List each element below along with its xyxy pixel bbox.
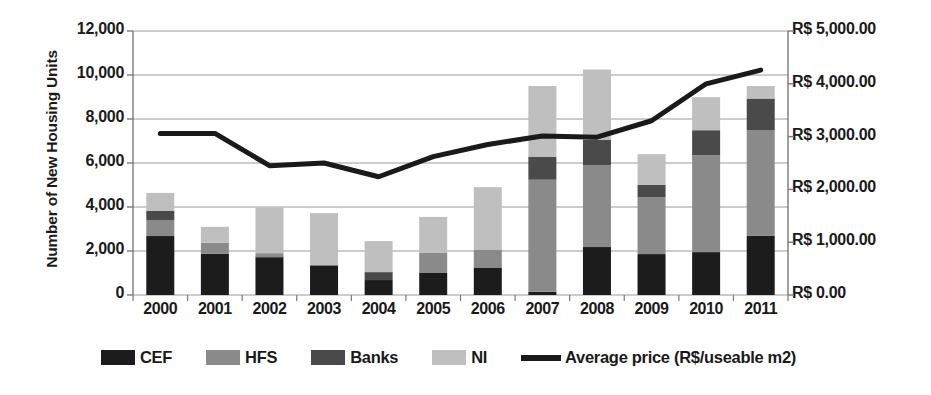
bar-segment-ni-2009 — [638, 154, 666, 185]
bar-segment-cef-2007 — [528, 292, 556, 295]
bar-group-2001 — [201, 227, 229, 295]
bar-segment-ni-2002 — [255, 207, 283, 253]
bar-segment-ni-2006 — [474, 187, 502, 249]
legend-label: Average price (R$/useable m2) — [565, 348, 796, 367]
legend-swatch-icon — [101, 350, 135, 365]
legend-line-marker — [521, 355, 561, 361]
bar-segment-ni-2010 — [692, 97, 720, 130]
bar-segment-hfs-2005 — [419, 253, 447, 273]
legend-item-cef[interactable]: CEF — [101, 348, 172, 367]
bar-segment-hfs-2000 — [146, 220, 174, 236]
bar-group-2006 — [474, 187, 502, 295]
bar-segment-ni-2000 — [146, 193, 174, 211]
legend-swatch-icon — [206, 350, 240, 365]
legend-label: CEF — [140, 348, 172, 367]
bar-segment-hfs-2002 — [255, 253, 283, 257]
bar-segment-banks-2007 — [528, 157, 556, 180]
plot-area — [0, 0, 931, 395]
bar-segment-cef-2006 — [474, 268, 502, 296]
bar-segment-hfs-2009 — [638, 197, 666, 254]
bar-segment-hfs-2007 — [528, 180, 556, 292]
bar-group-2011 — [747, 86, 775, 295]
bar-segment-banks-2011 — [747, 99, 775, 131]
legend-item-average-price-r-useable-m2[interactable]: Average price (R$/useable m2) — [521, 348, 796, 367]
legend-swatch-icon — [311, 350, 345, 365]
bar-segment-hfs-2006 — [474, 249, 502, 267]
bar-group-2004 — [365, 241, 393, 295]
bar-group-2008 — [583, 70, 611, 296]
bar-group-2009 — [638, 154, 666, 295]
legend-label: NI — [471, 348, 487, 367]
legend-label: Banks — [350, 348, 398, 367]
bar-segment-hfs-2008 — [583, 165, 611, 247]
bar-segment-banks-2000 — [146, 211, 174, 220]
bar-segment-ni-2005 — [419, 217, 447, 253]
bar-segment-cef-2009 — [638, 254, 666, 295]
bar-segment-ni-2008 — [583, 70, 611, 140]
bar-segment-banks-2009 — [638, 185, 666, 197]
bar-group-2007 — [528, 86, 556, 295]
legend-label: HFS — [245, 348, 277, 367]
bar-segment-hfs-2011 — [747, 130, 775, 235]
bar-segment-cef-2000 — [146, 236, 174, 295]
bar-segment-cef-2005 — [419, 273, 447, 295]
legend-swatch-icon — [432, 350, 466, 365]
bar-group-2010 — [692, 97, 720, 295]
line-series-average-price — [160, 70, 760, 177]
bar-segment-cef-2001 — [201, 254, 229, 295]
bar-segment-banks-2010 — [692, 130, 720, 155]
bar-segment-ni-2003 — [310, 213, 338, 265]
bar-segment-cef-2004 — [365, 280, 393, 295]
legend-item-hfs[interactable]: HFS — [206, 348, 277, 367]
legend-item-banks[interactable]: Banks — [311, 348, 398, 367]
bar-group-2000 — [146, 193, 174, 295]
bar-segment-banks-2008 — [583, 140, 611, 165]
bar-segment-ni-2004 — [365, 241, 393, 272]
bar-segment-ni-2011 — [747, 86, 775, 99]
legend-item-ni[interactable]: NI — [432, 348, 487, 367]
bar-segment-banks-2004 — [365, 272, 393, 280]
bar-group-2003 — [310, 213, 338, 295]
bar-group-2005 — [419, 217, 447, 295]
chart-container: Number of New Housing Units 02,0004,0006… — [0, 0, 931, 395]
bar-segment-cef-2002 — [255, 257, 283, 295]
bar-segment-ni-2001 — [201, 227, 229, 243]
bar-group-2002 — [255, 207, 283, 295]
bar-segment-ni-2007 — [528, 86, 556, 157]
bar-segment-cef-2010 — [692, 252, 720, 295]
bar-segment-hfs-2010 — [692, 155, 720, 252]
bar-segment-hfs-2001 — [201, 243, 229, 254]
bar-segment-cef-2003 — [310, 265, 338, 295]
chart-legend: CEFHFSBanksNIAverage price (R$/useable m… — [0, 348, 931, 367]
bar-segment-cef-2008 — [583, 247, 611, 295]
bar-segment-cef-2011 — [747, 236, 775, 295]
